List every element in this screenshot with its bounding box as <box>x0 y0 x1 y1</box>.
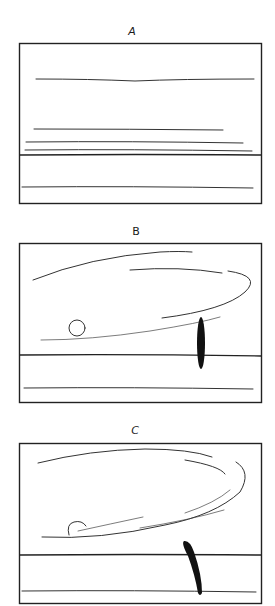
panel-a-line-3 <box>26 142 243 143</box>
panel-c-horizon <box>20 555 261 556</box>
panel-c-arc-inner <box>185 460 225 474</box>
panel-c-arc-trail-1 <box>78 517 143 531</box>
panel-b-arc-top <box>33 252 192 281</box>
panel-b-arc-inner <box>130 269 222 273</box>
panel-c-arc-trail-2 <box>140 510 224 528</box>
panel-a-line-2 <box>34 129 223 130</box>
panel-c-ball <box>68 522 86 536</box>
panel-c-arc-top <box>38 449 212 463</box>
diagram-canvas <box>0 0 275 606</box>
panel-b-figure <box>197 317 205 369</box>
panel-c <box>20 444 262 604</box>
panel-b-arc-right <box>162 271 251 318</box>
panel-a-ground-line <box>22 187 253 188</box>
panel-c-arc-swoop <box>42 462 245 538</box>
panel-b-ball <box>69 320 85 336</box>
panel-b-arc-bottom <box>41 317 220 340</box>
panel-a-frame <box>20 44 262 204</box>
panel-a-horizon <box>20 155 261 156</box>
panel-a <box>20 44 262 204</box>
panel-b-ground-line <box>24 388 253 389</box>
panel-b-horizon <box>20 355 261 356</box>
panel-a-line-1 <box>36 79 254 81</box>
panel-b <box>20 244 262 403</box>
panel-c-ground-line <box>22 591 256 592</box>
panel-c-frame <box>20 444 262 604</box>
panel-c-figure <box>183 541 202 595</box>
panel-a-line-4 <box>25 150 252 151</box>
panel-b-frame <box>20 244 262 403</box>
panel-c-arc-trail-3 <box>185 490 230 513</box>
